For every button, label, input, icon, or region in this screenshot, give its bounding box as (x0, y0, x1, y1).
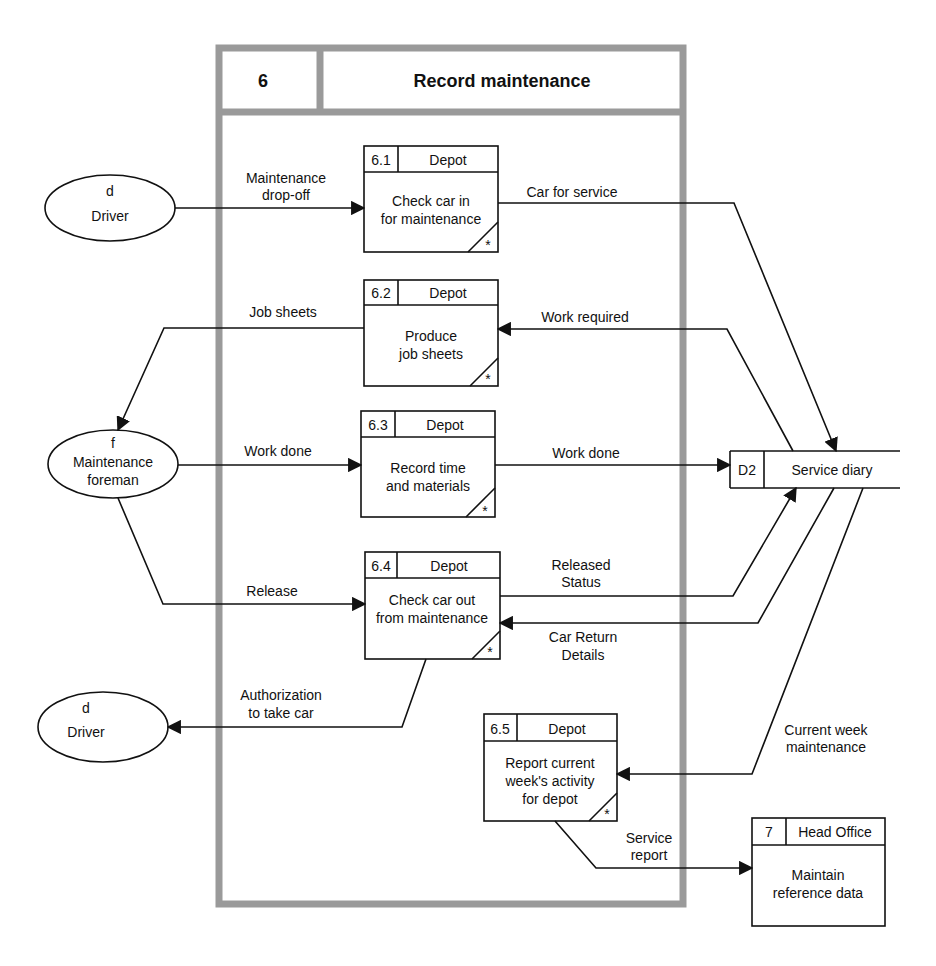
process-location: Depot (426, 417, 463, 433)
svg-text:Release: Release (246, 583, 298, 599)
process-id: 6.3 (368, 417, 388, 433)
process-name-line1: Check car out (389, 592, 475, 608)
svg-text:drop-off: drop-off (262, 187, 310, 203)
process-location: Depot (548, 721, 585, 737)
process-name-line1: Maintain (792, 867, 845, 883)
process-6-2[interactable]: 6.2 Depot Produce job sheets * (364, 280, 498, 387)
process-name-line2: and materials (386, 478, 470, 494)
flow-released-status: Released Status (500, 488, 796, 596)
asterisk-icon: * (485, 371, 491, 387)
flow-job-sheets: Job sheets (118, 304, 364, 430)
process-id: 6.5 (490, 721, 510, 737)
svg-text:Work required: Work required (541, 309, 629, 325)
asterisk-icon: * (485, 237, 491, 253)
external-name: Driver (67, 724, 105, 740)
external-maintenance-foreman[interactable]: f Maintenance foreman (48, 430, 178, 498)
svg-text:Maintenance: Maintenance (246, 170, 326, 186)
process-6-5[interactable]: 6.5 Depot Report current week's activity… (484, 714, 617, 822)
external-code: d (106, 183, 114, 199)
process-name-line1: Record time (390, 460, 466, 476)
svg-text:Status: Status (561, 574, 601, 590)
svg-text:Service: Service (626, 830, 673, 846)
process-location: Depot (429, 285, 466, 301)
asterisk-icon: * (604, 806, 610, 822)
process-6-1[interactable]: 6.1 Depot Check car in for maintenance * (364, 146, 498, 253)
external-driver-bottom[interactable]: d Driver (38, 692, 168, 762)
dfd-canvas: 6 Record maintenance 6.1 Depot Check car… (0, 0, 936, 966)
svg-text:maintenance: maintenance (786, 739, 866, 755)
svg-text:Work done: Work done (552, 445, 620, 461)
process-7[interactable]: 7 Head Office Maintain reference data (752, 818, 885, 926)
svg-text:to take car: to take car (248, 705, 314, 721)
external-driver-top[interactable]: d Driver (45, 175, 175, 241)
svg-text:report: report (631, 847, 668, 863)
flow-work-done-in: Work done (178, 443, 361, 465)
process-name-line1: Produce (405, 328, 457, 344)
flow-current-week-maintenance: Current week maintenance (617, 488, 869, 774)
asterisk-icon: * (482, 503, 488, 519)
process-name-line3: for depot (522, 791, 577, 807)
external-name: Maintenance (73, 454, 153, 470)
svg-text:Authorization: Authorization (240, 687, 322, 703)
frame-title: Record maintenance (413, 71, 590, 91)
svg-text:Current week: Current week (784, 722, 868, 738)
process-name-line2: job sheets (398, 346, 463, 362)
process-id: 6.1 (371, 152, 391, 168)
flow-service-report: Service report (555, 821, 752, 868)
svg-text:Released: Released (551, 557, 610, 573)
process-name-line1: Check car in (392, 193, 470, 209)
external-name: Driver (91, 208, 129, 224)
process-id: 6.4 (371, 558, 391, 574)
process-location: Head Office (798, 824, 872, 840)
flow-work-done-out: Work done (495, 445, 730, 465)
external-name-line2: foreman (87, 472, 138, 488)
svg-text:Car Return: Car Return (549, 629, 617, 645)
process-name-line2: reference data (773, 885, 863, 901)
process-location: Depot (430, 558, 467, 574)
datastore-d2[interactable]: D2 Service diary (730, 451, 900, 488)
svg-text:Details: Details (562, 647, 605, 663)
svg-text:Job sheets: Job sheets (249, 304, 317, 320)
process-location: Depot (429, 152, 466, 168)
flow-work-required: Work required (498, 309, 793, 451)
process-id: 7 (765, 824, 773, 840)
process-name-line1: Report current (505, 755, 595, 771)
svg-text:Work done: Work done (244, 443, 312, 459)
process-name-line2: week's activity (504, 773, 594, 789)
process-id: 6.2 (371, 285, 391, 301)
process-name-line2: from maintenance (376, 610, 488, 626)
datastore-name: Service diary (792, 462, 873, 478)
flow-authorization: Authorization to take car (168, 659, 426, 727)
flow-release: Release (118, 498, 365, 604)
flow-car-return-details: Car Return Details (500, 488, 834, 663)
asterisk-icon: * (487, 644, 493, 660)
process-6-3[interactable]: 6.3 Depot Record time and materials * (361, 411, 495, 519)
process-6-4[interactable]: 6.4 Depot Check car out from maintenance… (365, 552, 500, 660)
process-name-line2: for maintenance (381, 211, 482, 227)
svg-text:Car for service: Car for service (526, 184, 617, 200)
frame-number: 6 (258, 71, 268, 91)
flow-maintenance-dropoff: Maintenance drop-off (175, 170, 364, 208)
external-code: d (82, 700, 90, 716)
datastore-id: D2 (738, 462, 756, 478)
external-code: f (111, 435, 115, 451)
